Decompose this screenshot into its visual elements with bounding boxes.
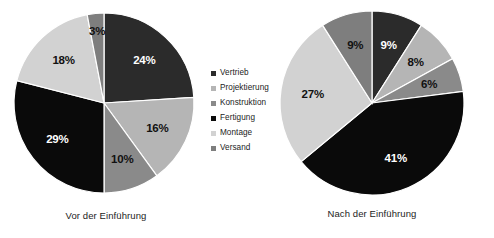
legend-swatch-icon <box>211 116 216 121</box>
pie-slice-label: 3% <box>89 25 105 37</box>
legend-swatch-icon <box>211 131 216 136</box>
pie-chart-after: 9%8%6%41%27%9% Nach der Einführung <box>272 2 472 234</box>
legend-item-label: Versand <box>220 144 250 152</box>
pie-slice-label: 29% <box>46 133 68 145</box>
pie-slice-label: 16% <box>146 122 168 134</box>
legend-item-label: Montage <box>220 129 252 137</box>
pie-slice-label: 27% <box>302 88 324 100</box>
legend-item-label: Konstruktion <box>220 99 266 107</box>
legend-item-label: Fertigung <box>220 114 255 122</box>
legend-swatch-icon <box>211 71 216 76</box>
legend-item-label: Projektierung <box>220 84 269 92</box>
pie-chart-after-graphic: 9%8%6%41%27%9% <box>272 2 472 202</box>
legend-item-label: Vertrieb <box>220 69 249 77</box>
pie-chart-before-graphic: 24%16%10%29%18%3% <box>8 4 204 200</box>
legend-swatch-icon <box>211 86 216 91</box>
pie-chart-before: 24%16%10%29%18%3% Vor der Einführung <box>8 4 204 234</box>
pie-chart-before-caption: Vor der Einführung <box>8 210 204 221</box>
pie-slice-label: 9% <box>381 39 397 51</box>
legend-swatch-icon <box>211 146 216 151</box>
pie-slice-label: 41% <box>385 152 407 164</box>
figure-canvas: 24%16%10%29%18%3% Vor der Einführung Ver… <box>0 0 494 238</box>
legend-swatch-icon <box>211 101 216 106</box>
pie-slice-label: 18% <box>52 54 74 66</box>
pie-slice-label: 6% <box>421 78 437 90</box>
pie-chart-after-caption: Nach der Einführung <box>272 208 472 219</box>
pie-slice-label: 9% <box>347 39 363 51</box>
pie-slice-label: 10% <box>111 153 133 165</box>
pie-slice-label: 24% <box>133 54 155 66</box>
pie-slice-label: 8% <box>408 56 424 68</box>
